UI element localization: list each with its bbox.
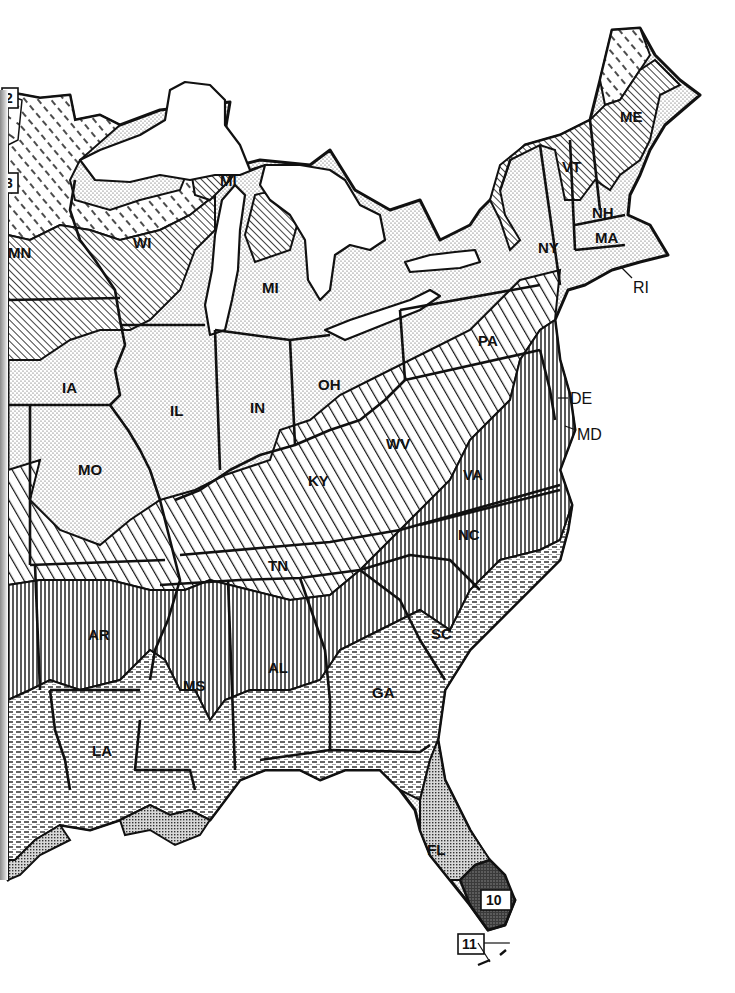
state-label-ri: RI <box>633 279 649 296</box>
state-label-nc: NC <box>458 526 480 543</box>
state-label-mi-upper: MI <box>220 172 237 189</box>
state-label-wi: WI <box>133 234 151 251</box>
state-label-sc: SC <box>431 625 452 642</box>
state-label-ky: KY <box>308 472 329 489</box>
state-label-va: VA <box>463 466 483 483</box>
state-label-ia: IA <box>62 379 77 396</box>
state-label-al: AL <box>268 659 288 676</box>
state-label-ma: MA <box>595 229 618 246</box>
state-label-il: IL <box>170 402 183 419</box>
scan-edge-shadow <box>0 90 8 880</box>
state-label-me: ME <box>620 108 643 125</box>
state-label-ga: GA <box>372 684 395 701</box>
map-canvas: 2 3 10 11 ME VT NH MA NY MN WI MI MI <box>0 0 735 993</box>
zone-9-region-florida <box>420 740 490 880</box>
zone-label-10: 10 <box>481 890 511 910</box>
state-label-ar: AR <box>88 626 110 643</box>
state-label-la: LA <box>92 742 112 759</box>
state-label-mo: MO <box>78 461 102 478</box>
hardiness-zone-map: 2 3 10 11 ME VT NH MA NY MN WI MI MI <box>0 0 735 993</box>
state-label-mn: MN <box>8 244 31 261</box>
state-label-in: IN <box>250 399 265 416</box>
state-label-ms: MS <box>183 677 206 694</box>
state-label-fl: FL <box>427 841 445 858</box>
zone-label-11: 11 <box>458 934 510 965</box>
state-label-wv: WV <box>386 435 410 452</box>
svg-text:11: 11 <box>462 936 477 952</box>
state-label-vt: VT <box>562 158 581 175</box>
state-label-mi-lower: MI <box>262 279 279 296</box>
state-label-tn: TN <box>268 557 288 574</box>
state-label-md: MD <box>577 426 602 443</box>
state-label-de: DE <box>570 390 592 407</box>
svg-text:10: 10 <box>486 892 502 908</box>
state-label-ny: NY <box>538 239 559 256</box>
state-label-nh: NH <box>592 204 614 221</box>
state-label-pa: PA <box>478 332 498 349</box>
state-label-oh: OH <box>318 376 341 393</box>
